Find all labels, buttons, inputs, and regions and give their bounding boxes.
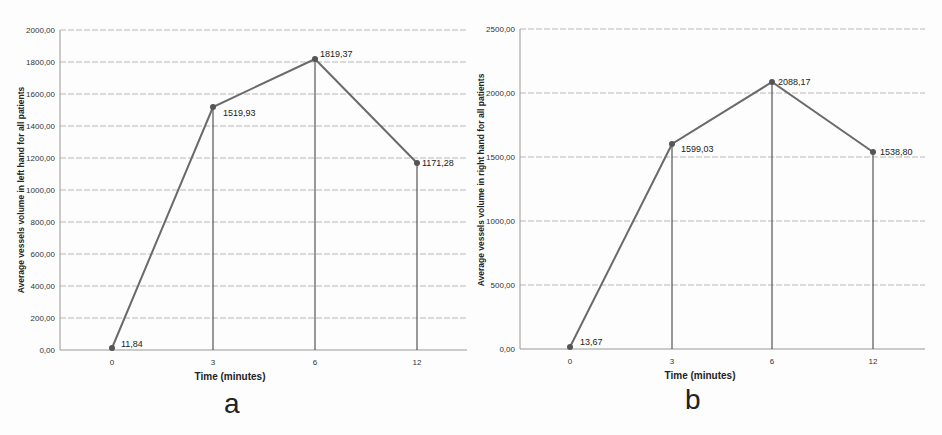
svg-text:1800,00: 1800,00 xyxy=(26,58,55,67)
svg-text:2500,00: 2500,00 xyxy=(486,25,515,34)
chart-panel-a: 0,00 200,00 400,00 600,00 800,00 1000,00… xyxy=(0,0,470,435)
x-axis-title: Time (minutes) xyxy=(665,370,736,381)
svg-text:1200,00: 1200,00 xyxy=(26,154,55,163)
svg-text:600,00: 600,00 xyxy=(31,250,56,259)
svg-text:200,00: 200,00 xyxy=(31,314,56,323)
svg-text:12: 12 xyxy=(413,358,422,367)
series-line-right-hand xyxy=(570,82,873,347)
series-line-left-hand xyxy=(112,59,417,348)
data-points xyxy=(109,56,420,351)
svg-text:1500,00: 1500,00 xyxy=(486,153,515,162)
svg-text:0: 0 xyxy=(568,357,573,366)
drop-lines xyxy=(672,82,873,349)
svg-text:1000,00: 1000,00 xyxy=(26,186,55,195)
svg-text:3: 3 xyxy=(670,357,675,366)
gridlines xyxy=(520,29,925,285)
svg-text:2000,00: 2000,00 xyxy=(486,89,515,98)
y-axis-title: Average vessels volume in left hand for … xyxy=(16,86,26,293)
svg-text:0,00: 0,00 xyxy=(39,346,55,355)
line-chart-b: 0,00 500,00 1000,00 1500,00 2000,00 2500… xyxy=(470,0,942,435)
data-label-6: 2088,17 xyxy=(778,77,811,87)
chart-panel-b: 0,00 500,00 1000,00 1500,00 2000,00 2500… xyxy=(470,0,942,435)
svg-text:2000,00: 2000,00 xyxy=(26,26,55,35)
y-tick-labels: 0,00 500,00 1000,00 1500,00 2000,00 2500… xyxy=(486,25,515,354)
line-chart-a: 0,00 200,00 400,00 600,00 800,00 1000,00… xyxy=(0,0,470,435)
svg-text:1000,00: 1000,00 xyxy=(486,217,515,226)
svg-text:1600,00: 1600,00 xyxy=(26,90,55,99)
svg-text:400,00: 400,00 xyxy=(31,282,56,291)
svg-text:12: 12 xyxy=(869,357,878,366)
panel-label-b: b xyxy=(685,384,701,416)
x-axis-title: Time (minutes) xyxy=(195,371,266,382)
data-label-3: 1599,03 xyxy=(681,144,714,154)
drop-lines xyxy=(213,59,417,350)
data-points xyxy=(567,79,876,350)
data-label-0: 13,67 xyxy=(580,337,603,347)
data-label-12: 1171,28 xyxy=(422,158,454,168)
svg-text:6: 6 xyxy=(313,358,318,367)
svg-text:6: 6 xyxy=(770,357,775,366)
svg-text:500,00: 500,00 xyxy=(491,281,516,290)
data-label-12: 1538,80 xyxy=(880,147,913,157)
data-label-3: 1519,93 xyxy=(223,108,256,118)
data-label-6: 1819,37 xyxy=(320,49,353,59)
x-tick-labels: 0 3 6 12 xyxy=(568,357,878,366)
data-label-0: 11,84 xyxy=(121,339,143,349)
gridlines xyxy=(60,30,467,318)
y-axis-title: Average vessels volume in right hand for… xyxy=(476,73,486,286)
svg-text:0,00: 0,00 xyxy=(499,345,515,354)
svg-text:800,00: 800,00 xyxy=(31,218,56,227)
svg-text:0: 0 xyxy=(110,358,115,367)
svg-text:1400,00: 1400,00 xyxy=(26,122,55,131)
svg-text:3: 3 xyxy=(211,358,216,367)
panel-label-a: a xyxy=(224,388,240,420)
x-tick-labels: 0 3 6 12 xyxy=(110,358,422,367)
y-tick-labels: 0,00 200,00 400,00 600,00 800,00 1000,00… xyxy=(26,26,55,355)
